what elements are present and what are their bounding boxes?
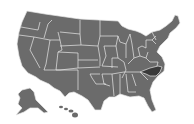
hawaii[interactable] bbox=[59, 106, 78, 118]
us-map bbox=[0, 0, 194, 124]
contiguous-us bbox=[17, 11, 180, 112]
alaska[interactable] bbox=[16, 88, 48, 115]
